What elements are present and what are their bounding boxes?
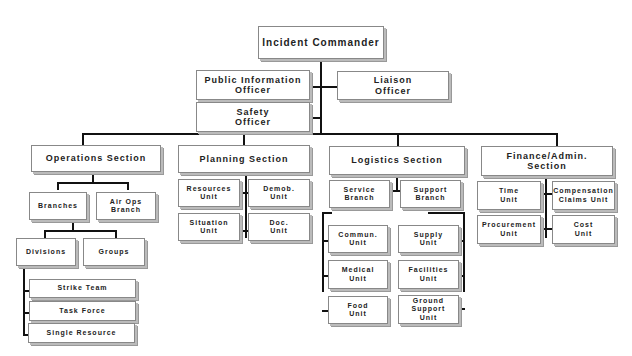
medical-unit-box[interactable]: Medical Unit [328,260,388,289]
connector [540,193,552,195]
connector [57,182,128,184]
task-force-box[interactable]: Task Force [29,301,136,321]
connector [428,212,463,214]
connector [322,212,324,292]
air-ops-branch-box[interactable]: Air Ops Branch [96,192,156,220]
connector [44,230,46,238]
strike-team-box[interactable]: Strike Team [29,279,136,298]
doc-unit-box[interactable]: Doc. Unit [248,213,310,241]
procurement-unit-box[interactable]: Procurement Unit [477,215,541,244]
supply-unit-box[interactable]: Supply Unit [398,225,459,253]
single-resource-box[interactable]: Single Resource [28,323,135,343]
connector [115,230,117,238]
logistics-section-box[interactable]: Logistics Section [329,146,465,175]
cost-unit-box[interactable]: Cost Unit [552,215,615,244]
public-information-officer-box[interactable]: Public Information Officer [196,70,310,100]
compensation-claims-unit-box[interactable]: Compensation Claims Unit [552,181,615,210]
connector [460,275,465,277]
operations-section-box[interactable]: Operations Section [31,145,161,172]
connector [320,59,322,133]
incident-commander-box[interactable]: Incident Commander [258,26,384,59]
resources-unit-box[interactable]: Resources Unit [178,179,240,207]
safety-officer-box[interactable]: Safety Officer [196,102,310,132]
connector [463,212,465,292]
connector [460,308,465,310]
connector [396,174,398,191]
connector [57,182,59,190]
service-branch-box[interactable]: Service Branch [329,180,390,208]
time-unit-box[interactable]: Time Unit [477,181,541,210]
branches-box[interactable]: Branches [29,192,87,220]
connector [127,182,129,190]
connector [397,133,399,147]
groups-box[interactable]: Groups [83,238,145,266]
connector [322,212,332,214]
situation-unit-box[interactable]: Situation Unit [178,213,240,241]
ground-support-unit-box[interactable]: Ground Support Unit [398,295,459,324]
connector [460,240,465,242]
connector [311,117,321,119]
connector [92,172,94,182]
commun-unit-box[interactable]: Commun. Unit [328,225,388,253]
connector [311,86,337,88]
connector [245,172,247,238]
liaison-officer-box[interactable]: Liaison Officer [337,71,449,100]
demob-unit-box[interactable]: Demob. Unit [248,179,310,207]
facilities-unit-box[interactable]: Facilities Unit [398,260,459,289]
connector [44,230,116,232]
finance-admin-section-box[interactable]: Finance/Admin. Section [481,146,613,176]
connector [23,266,25,336]
planning-section-box[interactable]: Planning Section [178,145,310,173]
connector [82,133,556,135]
connector [540,228,552,230]
connector [556,133,558,147]
divisions-box[interactable]: Divisions [16,238,76,266]
support-branch-box[interactable]: Support Branch [400,180,461,208]
food-unit-box[interactable]: Food Unit [328,296,388,324]
connector [72,220,74,230]
